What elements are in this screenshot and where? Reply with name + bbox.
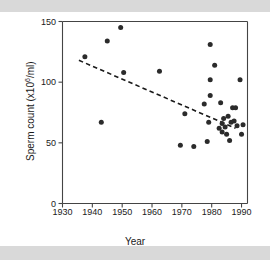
data-point: [82, 54, 87, 59]
data-point: [212, 63, 217, 68]
x-axis-title: Year: [0, 236, 270, 247]
data-point: [205, 139, 210, 144]
data-point: [232, 118, 237, 123]
data-point: [202, 102, 207, 107]
data-point: [238, 77, 243, 82]
y-axis-title-prefix: Sperm count (x10: [25, 82, 36, 161]
x-tick-label: 1950: [112, 207, 132, 217]
data-point: [208, 93, 213, 98]
data-point: [223, 125, 228, 130]
data-point: [239, 132, 244, 137]
y-axis-title-superscript: 6: [24, 78, 31, 82]
data-point: [118, 25, 123, 30]
axes-group: [59, 22, 248, 208]
x-tick-label: 1980: [202, 207, 222, 217]
x-tick-label: 1940: [82, 207, 102, 217]
x-tick-label: 1990: [232, 207, 252, 217]
data-point: [191, 144, 196, 149]
plot-canvas: [0, 0, 270, 260]
data-point: [178, 143, 183, 148]
scatter-plot-figure: 0501001501930194019501960197019801990 Ye…: [0, 0, 270, 260]
data-point: [208, 42, 213, 47]
data-point: [206, 120, 211, 125]
data-point: [121, 70, 126, 75]
data-point: [208, 77, 213, 82]
data-point: [221, 116, 226, 121]
data-point: [227, 138, 232, 143]
y-axis-title: Sperm count (x106/ml): [24, 21, 36, 201]
data-point: [157, 69, 162, 74]
data-point: [182, 111, 187, 116]
data-point: [99, 120, 104, 125]
x-tick-label: 1930: [52, 207, 72, 217]
data-point: [218, 100, 223, 105]
data-point: [224, 132, 229, 137]
data-point: [233, 105, 238, 110]
y-axis-title-suffix: /ml): [25, 61, 36, 78]
data-point: [220, 129, 225, 134]
data-point: [226, 114, 231, 119]
data-point: [241, 122, 246, 127]
x-tick-label: 1970: [172, 207, 192, 217]
data-points-group: [82, 25, 245, 149]
data-point: [235, 123, 240, 128]
x-tick-label: 1960: [142, 207, 162, 217]
data-point: [105, 38, 110, 43]
